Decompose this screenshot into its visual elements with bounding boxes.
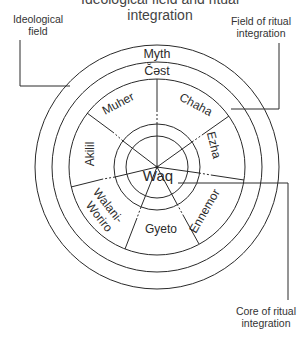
leader-core-of-ritual-integration xyxy=(178,183,288,300)
ring-label-myth: Myth xyxy=(143,47,170,61)
sector-label-ezha: Ezha xyxy=(204,130,224,160)
sector-label-gyeto: Gyeto xyxy=(145,222,177,236)
sector-label-chaha: Chaha xyxy=(177,90,215,119)
diagram-canvas: Ideological field and ritual integration… xyxy=(0,0,307,343)
ring-label-cast: Čəst xyxy=(144,63,170,78)
leader-ideological-field xyxy=(20,40,70,86)
core-label-waq: Waq xyxy=(143,167,173,184)
sector-label-ennemor: Ennemor xyxy=(186,186,222,235)
sector-label-akilil: Akilil xyxy=(83,142,97,167)
sector-label-muher: Muher xyxy=(100,89,137,117)
concentric-wheel-diagram: Myth Čəst Waq Muher Chaha Ezha Ennemor G… xyxy=(0,0,307,343)
